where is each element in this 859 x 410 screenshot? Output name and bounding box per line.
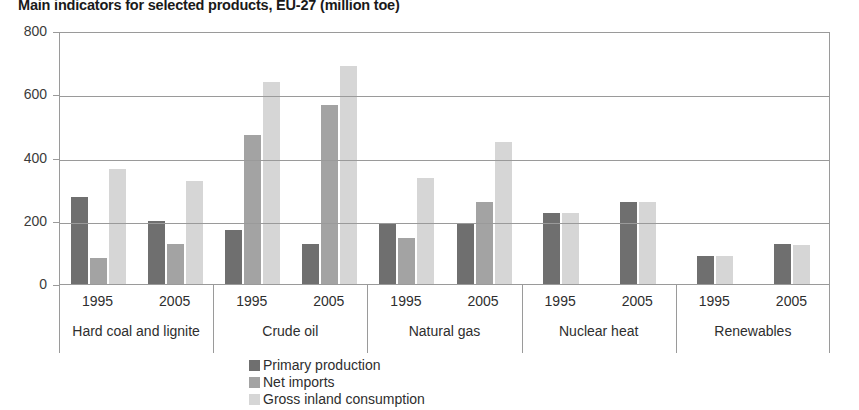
bar-primary-production-natural-gas-2005 [457, 224, 474, 284]
bar-cluster [60, 33, 137, 284]
y-tick-label-800: 800 [0, 23, 47, 39]
bar-net-imports-crude-oil-1995 [244, 135, 261, 284]
bar-cluster [754, 33, 831, 284]
bar-primary-production-hard-coal-and-lignite-2005 [148, 221, 165, 284]
gridline-200 [60, 223, 829, 224]
category-axis: 19952005Hard coal and lignite19952005Cru… [59, 285, 830, 353]
bar-group [677, 33, 831, 284]
y-tick-label-600: 600 [0, 86, 47, 102]
y-tick-label-400: 400 [0, 150, 47, 166]
bar-gross-inland-consumption-crude-oil-1995 [263, 82, 280, 284]
legend-item: Net imports [249, 374, 425, 390]
bar-cluster [137, 33, 214, 284]
bar-net-imports-crude-oil-2005 [321, 105, 338, 284]
bar-cluster [677, 33, 754, 284]
bar-gross-inland-consumption-hard-coal-and-lignite-2005 [186, 181, 203, 284]
bar-gross-inland-consumption-nuclear-heat-2005 [639, 202, 656, 284]
legend-item: Primary production [249, 357, 425, 373]
bar-cluster [214, 33, 291, 284]
bar-cluster [600, 33, 677, 284]
bar-gross-inland-consumption-hard-coal-and-lignite-1995 [109, 169, 126, 284]
gridline-600 [60, 96, 829, 97]
category-separator [213, 285, 214, 353]
year-label: 2005 [622, 293, 653, 309]
category-separator [522, 285, 523, 353]
bar-gross-inland-consumption-renewables-1995 [716, 256, 733, 284]
year-label: 1995 [699, 293, 730, 309]
year-label: 1995 [390, 293, 421, 309]
legend-swatch-icon [249, 377, 260, 388]
y-tick-label-0: 0 [0, 276, 47, 292]
y-tick-label-200: 200 [0, 213, 47, 229]
bar-group [60, 33, 214, 284]
group-label: Crude oil [262, 323, 318, 339]
bar-primary-production-nuclear-heat-2005 [620, 202, 637, 284]
group-label: Natural gas [409, 323, 481, 339]
year-label: 2005 [467, 293, 498, 309]
year-label: 1995 [82, 293, 113, 309]
bar-group [368, 33, 522, 284]
bar-cluster [445, 33, 522, 284]
category-separator [829, 285, 830, 353]
year-label: 1995 [236, 293, 267, 309]
legend-label: Primary production [263, 357, 381, 373]
legend-swatch-icon [249, 360, 260, 371]
category-separator [367, 285, 368, 353]
bar-primary-production-renewables-1995 [697, 256, 714, 284]
chart-container: Main indicators for selected products, E… [0, 0, 859, 410]
chart-title: Main indicators for selected products, E… [18, 0, 400, 13]
bar-primary-production-crude-oil-1995 [225, 230, 242, 284]
legend-swatch-icon [249, 394, 260, 405]
year-label: 2005 [776, 293, 807, 309]
legend-item: Gross inland consumption [249, 391, 425, 407]
bar-primary-production-hard-coal-and-lignite-1995 [71, 197, 88, 284]
gridline-400 [60, 160, 829, 161]
bar-group [214, 33, 368, 284]
bars-layer [60, 33, 829, 284]
bar-cluster [523, 33, 600, 284]
year-label: 1995 [545, 293, 576, 309]
y-tick-mark-200 [53, 222, 59, 223]
year-label: 2005 [313, 293, 344, 309]
bar-primary-production-renewables-2005 [774, 244, 791, 284]
bar-cluster [291, 33, 368, 284]
category-separator [59, 285, 60, 353]
group-label: Nuclear heat [559, 323, 638, 339]
bar-net-imports-natural-gas-2005 [476, 202, 493, 284]
bar-net-imports-hard-coal-and-lignite-2005 [167, 244, 184, 284]
group-label: Renewables [714, 323, 791, 339]
legend-label: Gross inland consumption [263, 391, 425, 407]
bar-group [523, 33, 677, 284]
bar-gross-inland-consumption-renewables-2005 [793, 245, 810, 284]
bar-gross-inland-consumption-crude-oil-2005 [340, 66, 357, 284]
category-separator [676, 285, 677, 353]
y-tick-mark-600 [53, 95, 59, 96]
plot-area [59, 32, 830, 285]
group-label: Hard coal and lignite [72, 323, 200, 339]
bar-gross-inland-consumption-natural-gas-2005 [495, 142, 512, 284]
bar-net-imports-natural-gas-1995 [398, 238, 415, 284]
legend-label: Net imports [263, 374, 335, 390]
bar-cluster [368, 33, 445, 284]
bar-primary-production-crude-oil-2005 [302, 244, 319, 284]
y-tick-mark-800 [53, 32, 59, 33]
bar-gross-inland-consumption-natural-gas-1995 [417, 178, 434, 284]
bar-net-imports-hard-coal-and-lignite-1995 [90, 258, 107, 284]
chart-legend: Primary productionNet importsGross inlan… [249, 357, 425, 408]
year-label: 2005 [159, 293, 190, 309]
y-tick-mark-400 [53, 159, 59, 160]
bar-primary-production-natural-gas-1995 [379, 224, 396, 284]
